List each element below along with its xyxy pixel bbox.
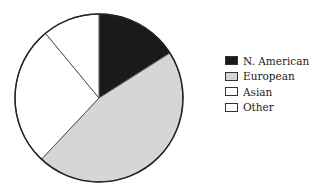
legend-label: N. American: [243, 55, 309, 67]
legend-label: Asian: [243, 86, 272, 98]
legend-swatch: [225, 56, 238, 65]
legend-item-n-american: N. American: [225, 53, 309, 68]
legend-item-european: European: [225, 69, 309, 84]
legend-label: European: [243, 70, 295, 82]
legend-swatch: [225, 87, 238, 96]
legend-swatch: [225, 103, 238, 112]
legend: N. American European Asian Other: [225, 53, 309, 115]
legend-label: Other: [243, 101, 274, 113]
legend-item-other: Other: [225, 100, 309, 115]
legend-item-asian: Asian: [225, 84, 309, 99]
legend-swatch: [225, 72, 238, 81]
